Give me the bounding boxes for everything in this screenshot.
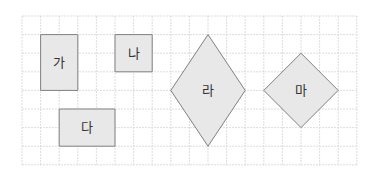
shape-na: 나 [115,35,152,72]
shape-label: 나 [128,46,140,61]
shapes-diagram: 가나다라마 [0,0,371,184]
shape-ga: 가 [41,35,78,91]
shape-label: 가 [53,55,65,70]
shape-label: 라 [202,83,214,98]
shape-da: 다 [59,109,115,146]
shape-label: 마 [295,83,307,98]
shape-ma: 마 [264,53,338,127]
shape-label: 다 [81,120,93,135]
shape-ra: 라 [171,35,245,147]
